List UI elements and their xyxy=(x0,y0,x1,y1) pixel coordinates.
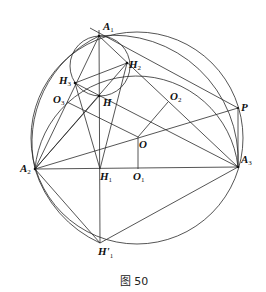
label-O1: O1 xyxy=(133,170,145,184)
arc-diameter-A2A3 xyxy=(35,76,238,169)
point-P xyxy=(237,107,239,109)
line-A2-H1p xyxy=(35,169,100,243)
altitude-A1-H1p xyxy=(99,30,100,243)
label-O2: O2 xyxy=(170,90,182,104)
label-H1p: H'1 xyxy=(97,245,114,260)
line-A3-H1p xyxy=(100,167,238,243)
figure-caption: 图 50 xyxy=(120,275,149,288)
label-H3: H3 xyxy=(58,74,72,88)
label-A1: A1 xyxy=(102,20,114,34)
line-A1-A3 xyxy=(99,36,238,167)
point-H2 xyxy=(126,62,129,65)
point-A3 xyxy=(237,166,240,169)
point-H xyxy=(98,95,101,98)
line-O-O2 xyxy=(138,102,168,137)
arc-left-inner xyxy=(32,36,99,169)
label-O: O xyxy=(139,138,147,150)
line-A1-A2 xyxy=(35,36,99,169)
line-A2-A3 xyxy=(35,167,238,169)
line-H3-H2 xyxy=(75,63,127,83)
point-A1 xyxy=(98,35,101,38)
geometry-figure: A1 H2 H3 O3 H O2 P O A2 A3 H1 O1 H'1 图 5… xyxy=(0,0,266,292)
label-O3: O3 xyxy=(53,93,65,107)
point-H3 xyxy=(74,82,77,85)
label-A2: A2 xyxy=(19,162,31,176)
label-A3: A3 xyxy=(240,153,252,167)
point-A2 xyxy=(34,168,37,171)
label-H1: H1 xyxy=(99,170,113,184)
label-H2: H2 xyxy=(128,58,142,72)
line-A1-P xyxy=(90,28,238,108)
label-P: P xyxy=(241,101,248,113)
label-H: H xyxy=(102,96,112,108)
